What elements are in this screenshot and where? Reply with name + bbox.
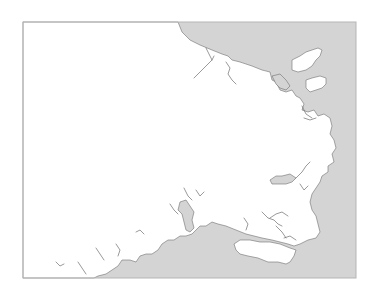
coastline-map (0, 0, 381, 296)
